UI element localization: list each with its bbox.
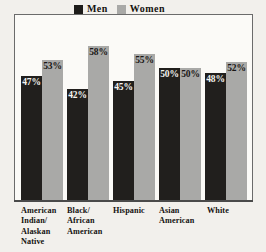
legend-entry-men: Men	[74, 4, 108, 14]
bar-value-label: 53%	[42, 62, 63, 72]
category-label-line: Hispanic	[113, 206, 145, 216]
bar-value-label: 42%	[67, 91, 88, 101]
bar-value-label: 58%	[88, 48, 109, 58]
legend-entry-women: Women	[117, 4, 165, 14]
category-label: AsianAmerican	[159, 206, 194, 227]
category-label-line: African	[67, 216, 102, 226]
bar-value-label: 52%	[226, 64, 247, 74]
category-label: Black/AfricanAmerican	[67, 206, 102, 237]
bar-men: 47%	[21, 76, 42, 202]
category-label-line: White	[207, 206, 229, 216]
legend-swatch-women-icon	[117, 5, 126, 14]
legend-label-women: Women	[130, 4, 165, 14]
category-label-line: Alaskan	[21, 227, 56, 237]
bar-value-label: 48%	[205, 75, 226, 85]
bars-plot-area: 47%53%42%58%45%55%50%50%48%52%	[14, 14, 253, 202]
bar-women: 55%	[134, 54, 155, 202]
bar-value-label: 55%	[134, 56, 155, 66]
bar-men: 42%	[67, 89, 88, 202]
category-label: White	[207, 206, 229, 216]
category-label-line: American	[21, 206, 56, 216]
category-label-line: American	[159, 216, 194, 226]
bar-men: 48%	[205, 73, 226, 202]
chart-legend: Men Women	[0, 4, 239, 14]
category-axis-labels: AmericanIndian/AlaskanNativeBlack/Africa…	[14, 206, 266, 252]
category-label-line: Asian	[159, 206, 194, 216]
bar-value-label: 47%	[21, 78, 42, 88]
x-axis-baseline	[14, 200, 253, 202]
legend-swatch-men-icon	[74, 5, 83, 14]
bar-men: 50%	[159, 68, 180, 202]
bar-value-label: 50%	[159, 70, 180, 80]
category-label-line: Native	[21, 237, 56, 247]
bar-men: 45%	[113, 81, 134, 202]
bar-value-label: 50%	[180, 70, 201, 80]
category-label-line: American	[67, 227, 102, 237]
category-label-line: Indian/	[21, 216, 56, 226]
bar-women: 50%	[180, 68, 201, 202]
category-label: AmericanIndian/AlaskanNative	[21, 206, 56, 248]
bar-women: 53%	[42, 60, 63, 202]
legend-label-men: Men	[87, 4, 108, 14]
bar-women: 58%	[88, 46, 109, 202]
bar-value-label: 45%	[113, 83, 134, 93]
category-label-line: Black/	[67, 206, 102, 216]
category-label: Hispanic	[113, 206, 145, 216]
bar-women: 52%	[226, 62, 247, 202]
chart-image: Men Women 47%53%42%58%45%55%50%50%48%52%…	[0, 0, 266, 252]
